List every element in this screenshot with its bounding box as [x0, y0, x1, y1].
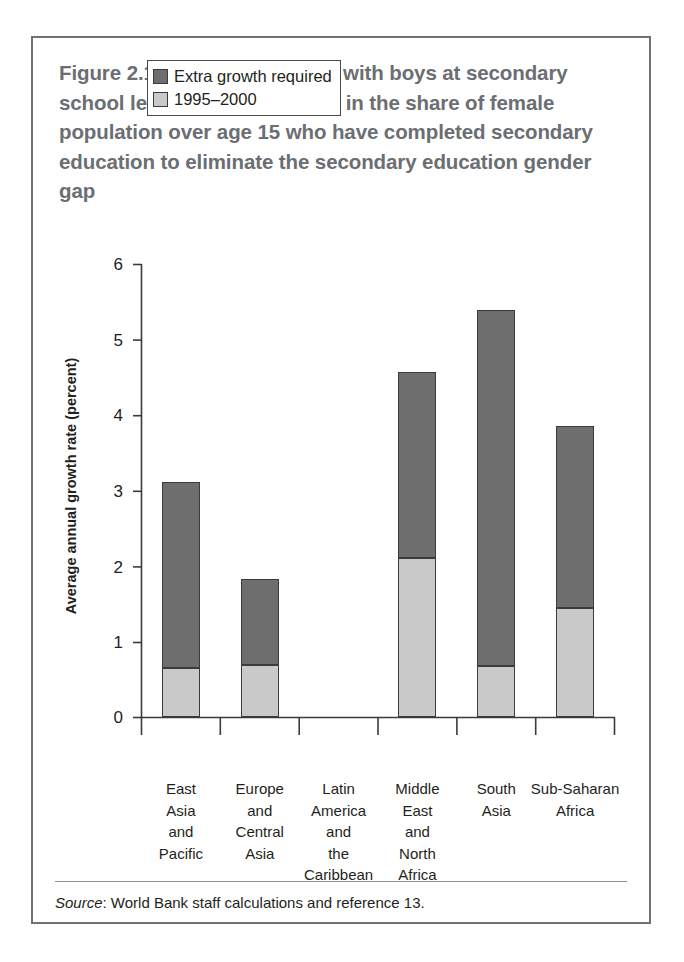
bar-segment-extra-growth: [556, 426, 594, 608]
chart-legend: Extra growth required 1995–2000: [147, 60, 341, 116]
x-axis-label-line: Pacific: [136, 843, 227, 865]
x-axis-label-6: Sub-SaharanAfrica: [530, 778, 621, 821]
legend-label-1995-2000: 1995–2000: [174, 90, 257, 109]
bar-segment-extra-growth: [241, 579, 279, 665]
x-axis-label-line: Central: [214, 821, 305, 843]
x-axis-label-1: EastAsiaandPacific: [136, 778, 227, 864]
x-axis-label-line: and: [214, 800, 305, 822]
x-axis-label-line: East: [372, 800, 463, 822]
y-tick-label-3: 3: [97, 483, 123, 500]
y-tick-label-4: 4: [97, 407, 123, 424]
x-axis-label-line: Sub-Saharan: [530, 778, 621, 800]
bar-segment-1995-2000: [477, 666, 515, 717]
y-tick-label-1: 1: [97, 634, 123, 651]
source-note: Source: World Bank staff calculations an…: [55, 894, 425, 911]
x-axis-label-3: LatinAmericaandtheCaribbean: [293, 778, 384, 886]
chart-plot-area: Average annual growth rate (percent): [33, 38, 653, 926]
x-axis-label-line: East: [136, 778, 227, 800]
x-axis-label-line: Latin: [293, 778, 384, 800]
x-axis-label-line: South: [451, 778, 542, 800]
x-axis-label-line: Caribbean: [293, 864, 384, 886]
legend-item-1995-2000: 1995–2000: [153, 88, 332, 111]
bar-segment-extra-growth: [398, 372, 436, 558]
x-axis-label-line: Africa: [530, 800, 621, 822]
y-tick-label-0: 0: [97, 709, 123, 726]
x-axis-label-line: Middle: [372, 778, 463, 800]
x-axis-label-line: Asia: [214, 843, 305, 865]
x-axis-label-line: Asia: [136, 800, 227, 822]
bar-segment-1995-2000: [241, 665, 279, 718]
legend-item-extra-growth: Extra growth required: [153, 65, 332, 88]
x-axis-label-line: and: [372, 821, 463, 843]
x-axis-label-line: America: [293, 800, 384, 822]
y-tick-label-5: 5: [97, 332, 123, 349]
x-axis-label-line: the: [293, 843, 384, 865]
x-axis-label-4: MiddleEastandNorthAfrica: [372, 778, 463, 886]
legend-swatch-extra-growth: [153, 69, 168, 84]
figure-container: Figure 2.14 Girls catching up with boys …: [31, 36, 651, 924]
source-text: : World Bank staff calculations and refe…: [103, 894, 425, 911]
bar-segment-1995-2000: [556, 608, 594, 717]
x-axis-label-line: and: [136, 821, 227, 843]
bar-segment-1995-2000: [162, 668, 200, 718]
x-axis-label-line: and: [293, 821, 384, 843]
legend-label-extra-growth: Extra growth required: [174, 67, 332, 86]
bar-segment-extra-growth: [162, 482, 200, 668]
legend-swatch-1995-2000: [153, 92, 168, 107]
source-divider: [55, 881, 627, 882]
x-axis-label-5: SouthAsia: [451, 778, 542, 821]
x-axis-label-line: Africa: [372, 864, 463, 886]
bar-segment-1995-2000: [398, 558, 436, 717]
x-axis-label-line: North: [372, 843, 463, 865]
y-tick-label-2: 2: [97, 559, 123, 576]
x-axis-label-line: Asia: [451, 800, 542, 822]
bar-segment-extra-growth: [477, 310, 515, 666]
x-axis-label-line: Europe: [214, 778, 305, 800]
x-axis-label-2: EuropeandCentralAsia: [214, 778, 305, 864]
source-prefix: Source: [55, 894, 103, 911]
y-tick-label-6: 6: [97, 256, 123, 273]
